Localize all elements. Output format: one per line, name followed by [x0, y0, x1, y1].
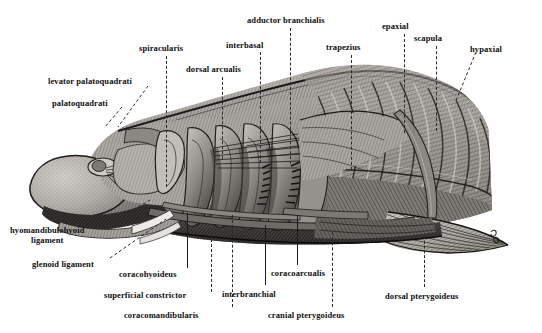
- scapula: [394, 110, 437, 218]
- adductor-branchialis: [214, 134, 314, 168]
- pectoral-fin: [380, 211, 508, 253]
- label-epaxial: epaxial: [382, 22, 409, 32]
- artist-monogram: [491, 230, 499, 243]
- leader-hyomandibulohyoid: [110, 200, 150, 224]
- label-trapezius: trapezius: [326, 43, 360, 53]
- trapezius: [299, 111, 415, 180]
- anatomical-figure: levator palatoquadratipalatoquadratispir…: [0, 0, 542, 333]
- spiracularis: [155, 131, 184, 194]
- hypobranchial-muscles: [148, 202, 415, 230]
- head-and-snout: [30, 118, 292, 238]
- leader-glenoid-ligament: [110, 219, 166, 258]
- gill-arch-1: [183, 128, 215, 227]
- leader-scapula: [436, 46, 437, 131]
- body-base: [83, 65, 492, 230]
- label-cranial-pterygoideus: cranial pterygoideus: [268, 311, 344, 321]
- label-glenoid-ligament: glenoid ligament: [32, 260, 94, 270]
- myomeres: [300, 60, 500, 235]
- label-adductor-branchialis: adductor branchialis: [247, 16, 325, 26]
- ventral-body-mass: [146, 214, 442, 245]
- leader-coracohyoideus: [187, 213, 188, 268]
- leader-levator-palatoquadrati: [118, 86, 148, 127]
- ligaments: [132, 210, 181, 244]
- palatoquadrate: [113, 144, 184, 194]
- label-dorsal-pterygoideus: dorsal pterygoideus: [385, 292, 458, 302]
- leader-spiracularis: [166, 56, 167, 187]
- epaxial-musculature: [118, 70, 490, 146]
- leader-adductor-branchialis: [290, 28, 291, 164]
- shark-musculature-illustration: [0, 0, 542, 333]
- label-coracomandibularis: coracomandibularis: [124, 311, 199, 321]
- leader-superficial-constrictor: [211, 234, 212, 292]
- leader-cranial-pterygoideus: [332, 232, 333, 307]
- leader-trapezius: [351, 55, 352, 170]
- gill-arch-3: [239, 124, 272, 230]
- label-dorsal-arcualis: dorsal arcualis: [186, 65, 241, 75]
- gill-arch-2: [211, 126, 243, 228]
- label-coracohyoideus: coracohyoideus: [119, 270, 177, 280]
- hypaxial-musculature: [300, 176, 494, 236]
- leader-dorsal-pterygoideus: [424, 236, 425, 287]
- leader-epaxial: [404, 34, 405, 133]
- orbital-region: [88, 158, 133, 190]
- label-interbasal: interbasal: [226, 41, 263, 51]
- gill-arch-5: [297, 126, 328, 230]
- leader-hypaxial: [455, 52, 476, 103]
- label-levator-palatoquadrati: levator palatoquadrati: [48, 77, 132, 87]
- label-hyomandibulohyoid-ligament: hyomandibulohyoidligament: [10, 226, 84, 245]
- label-scapula: scapula: [414, 34, 442, 44]
- label-superficial-constrictor: superficial constrictor: [104, 291, 186, 301]
- leader-dorsal-arcualis: [222, 77, 223, 159]
- label-palatoquadrati: palatoquadrati: [52, 99, 108, 109]
- label-hypaxial: hypaxial: [470, 45, 502, 55]
- leader-interbranchial: [265, 225, 266, 285]
- branchial-arches: [183, 124, 327, 231]
- label-spiracularis: spiracularis: [139, 44, 183, 54]
- leader-coracoarcualis: [297, 215, 298, 265]
- leader-palatoquadrati: [104, 107, 122, 128]
- leader-interbasal: [260, 52, 261, 163]
- label-interbranchial: interbranchial: [222, 290, 276, 300]
- label-coracoarcualis: coracoarcualis: [271, 269, 325, 279]
